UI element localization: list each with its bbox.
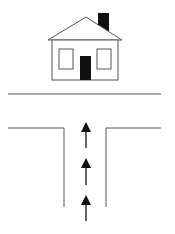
left-road-edge bbox=[8, 128, 64, 207]
arrow-3 bbox=[81, 195, 91, 221]
right-window bbox=[97, 49, 111, 69]
arrow-1 bbox=[81, 122, 91, 148]
arrow-up-icon bbox=[81, 158, 91, 168]
house bbox=[48, 13, 122, 80]
arrow-2 bbox=[81, 158, 91, 185]
arrow-up-icon bbox=[81, 122, 91, 132]
roof bbox=[48, 17, 122, 40]
door bbox=[80, 56, 91, 80]
left-window bbox=[59, 49, 73, 69]
chimney-top bbox=[98, 13, 109, 25]
right-road-edge bbox=[106, 128, 161, 207]
arrow-up-icon bbox=[81, 195, 91, 205]
diagram-canvas bbox=[0, 0, 175, 234]
